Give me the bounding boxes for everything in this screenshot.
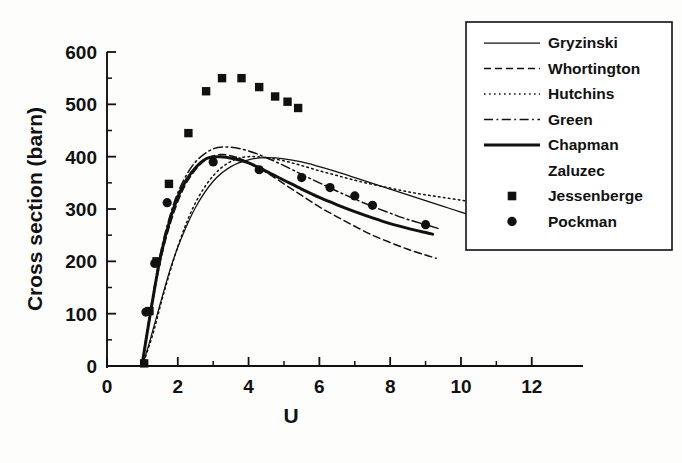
- y-axis-title: Cross section (barn): [23, 107, 46, 311]
- marker-jessenberge: [237, 74, 245, 82]
- curve-gryzinski: [142, 158, 482, 366]
- x-tick-label-2: 2: [173, 376, 184, 397]
- x-axis-title: U: [283, 404, 298, 427]
- marker-pockman: [368, 201, 377, 210]
- figure-container: 0100200300400500600024681012 UCross sect…: [0, 0, 682, 463]
- legend-label-green: Green: [548, 111, 593, 128]
- marker-pockman: [141, 307, 150, 316]
- legend-box: GryzinskiWhortingtonHutchinsGreenChapman…: [466, 22, 672, 250]
- marker-jessenberge: [294, 104, 302, 112]
- marker-pockman: [209, 157, 218, 166]
- y-tick-label-200: 200: [65, 251, 97, 272]
- legend-label-jessenberge: Jessenberge: [548, 187, 643, 204]
- x-tick-label-6: 6: [314, 376, 325, 397]
- x-tick-label-10: 10: [450, 376, 471, 397]
- marker-pockman: [150, 259, 159, 268]
- marker-jessenberge: [184, 129, 192, 137]
- marker-jessenberge: [202, 87, 210, 95]
- marker-jessenberge: [255, 83, 263, 91]
- curve-whortington: [142, 154, 436, 363]
- y-tick-label-100: 100: [65, 304, 97, 325]
- marker-jessenberge: [140, 359, 148, 367]
- marker-jessenberge: [218, 74, 226, 82]
- x-tick-label-0: 0: [102, 376, 113, 397]
- x-tick-label-12: 12: [521, 376, 542, 397]
- marker-jessenberge: [283, 98, 291, 106]
- legend-swatch-pockman: [507, 217, 516, 226]
- y-tick-label-600: 600: [65, 42, 97, 63]
- y-tick-label-500: 500: [65, 94, 97, 115]
- legend-label-gryzinski: Gryzinski: [548, 34, 618, 51]
- x-tick-label-8: 8: [385, 376, 396, 397]
- marker-pockman: [297, 173, 306, 182]
- legend-label-chapman: Chapman: [548, 136, 619, 153]
- marker-pockman: [421, 220, 430, 229]
- x-tick-label-4: 4: [243, 376, 254, 397]
- marker-pockman: [350, 191, 359, 200]
- y-tick-label-0: 0: [86, 356, 97, 377]
- legend-label-pockman: Pockman: [548, 213, 617, 230]
- marker-layer: [140, 74, 430, 368]
- marker-pockman: [163, 198, 172, 207]
- legend-swatch-jessenberge: [508, 192, 517, 201]
- marker-pockman: [255, 165, 264, 174]
- legend-label-hutchins: Hutchins: [548, 85, 614, 102]
- y-tick-label-300: 300: [65, 199, 97, 220]
- y-tick-label-400: 400: [65, 147, 97, 168]
- cross-section-chart: 0100200300400500600024681012 UCross sect…: [0, 0, 682, 463]
- legend-label-zaluzec: Zaluzec: [548, 162, 605, 179]
- curve-layer: [142, 147, 482, 366]
- marker-jessenberge: [165, 180, 173, 188]
- curve-hutchins: [142, 157, 475, 366]
- marker-pockman: [325, 183, 334, 192]
- legend-label-whortington: Whortington: [548, 60, 640, 77]
- marker-jessenberge: [271, 92, 279, 100]
